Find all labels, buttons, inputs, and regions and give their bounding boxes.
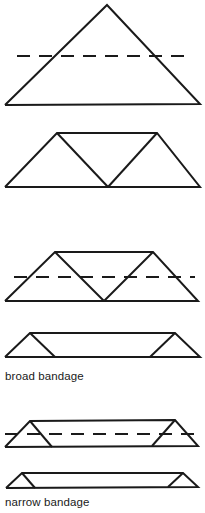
- step1-open-triangle-with-fold-line: [5, 5, 200, 105]
- step4-broad-bandage: [5, 333, 200, 357]
- bandage-folding-diagram: broad bandage narrow bandage: [0, 0, 205, 513]
- step2-apex-folded-to-base: [5, 133, 200, 187]
- bandage-outline: [57, 133, 108, 187]
- bandage-outline: [5, 133, 200, 187]
- broad-bandage-label: broad bandage: [5, 369, 84, 383]
- step3-trapezoid-with-fold-line: [5, 252, 198, 301]
- bandage-outline: [5, 5, 200, 105]
- step6-narrow-bandage: [6, 473, 198, 488]
- bandage-outline: [108, 133, 157, 187]
- bandage-outline: [30, 333, 55, 357]
- narrow-bandage-label: narrow bandage: [5, 495, 90, 509]
- bandage-outline: [168, 473, 183, 487]
- diagram-canvas: [0, 0, 205, 513]
- bandage-outline: [150, 333, 175, 357]
- bandage-outline: [22, 473, 35, 488]
- step5-broad-bandage-with-fold-line: [5, 420, 198, 447]
